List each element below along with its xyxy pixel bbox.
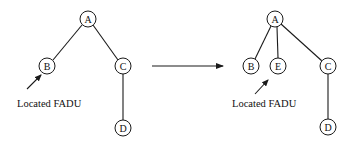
node-a-label: A (271, 14, 279, 25)
node-b-label: B (44, 61, 51, 72)
node-d: D (115, 120, 131, 136)
pointer-arrow-icon (27, 75, 41, 89)
node-c: C (115, 58, 131, 74)
edge-a-c (93, 25, 118, 60)
node-b: B (39, 58, 55, 74)
node-e-label: E (275, 61, 281, 72)
diagram-svg: A B C D Located FADU (0, 0, 355, 148)
node-a: A (267, 11, 283, 27)
pointer-arrow-icon (255, 80, 268, 94)
edge-a-b (53, 25, 82, 60)
tree-after: A B E C D Located FADU (232, 11, 336, 135)
node-b-label: B (248, 61, 255, 72)
tree-before: A B C D Located FADU (17, 11, 131, 136)
tree-diagram: A B C D Located FADU (0, 0, 355, 148)
node-d-label: D (119, 123, 126, 134)
edge-a-b (255, 26, 271, 59)
located-fadu-caption: Located FADU (232, 98, 297, 109)
edge-a-e (277, 27, 278, 58)
node-c-label: C (120, 61, 127, 72)
node-d: D (320, 119, 336, 135)
edge-a-c (281, 24, 322, 61)
node-c: C (320, 58, 336, 74)
node-d-label: D (324, 122, 331, 133)
node-c-label: C (325, 61, 332, 72)
node-e: E (270, 58, 286, 74)
node-b: B (243, 58, 259, 74)
node-a-label: A (84, 14, 92, 25)
node-a: A (80, 11, 96, 27)
located-fadu-caption: Located FADU (17, 98, 82, 109)
